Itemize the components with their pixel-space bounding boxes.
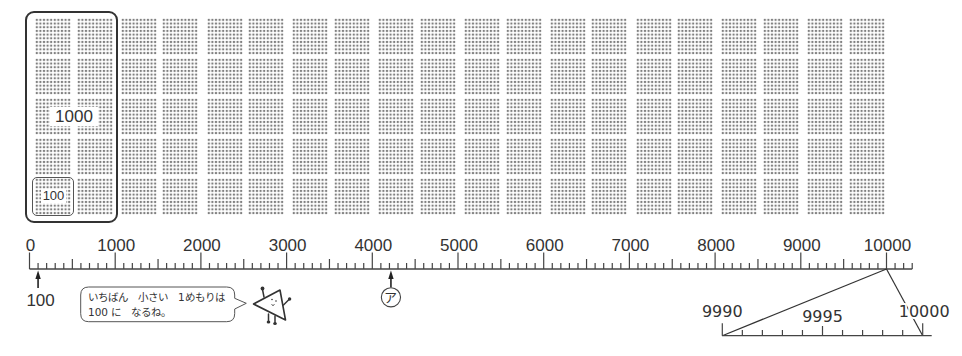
character-right-hand bbox=[288, 297, 291, 300]
character-right-foot bbox=[273, 322, 277, 325]
zoom-tick-label: 9995 bbox=[802, 307, 843, 326]
tick-label: 10000 bbox=[864, 236, 911, 255]
tick-label: 9000 bbox=[783, 236, 821, 255]
speech-bubble-line-1: いちばん 小さい 1めもりは bbox=[88, 291, 225, 303]
marker-100: 100 bbox=[26, 271, 54, 310]
character-eye-right bbox=[275, 300, 277, 302]
character-left-foot bbox=[267, 320, 271, 323]
tick-label: 2000 bbox=[183, 236, 221, 255]
tick-label: 7000 bbox=[611, 236, 649, 255]
tick-label: 6000 bbox=[526, 236, 564, 255]
character-left-arm bbox=[263, 290, 265, 298]
marker-label: 100 bbox=[26, 291, 54, 310]
zoom-tick-label: 10000 bbox=[899, 302, 950, 321]
marker-label: ア bbox=[384, 290, 397, 305]
character-left-hand bbox=[261, 287, 265, 291]
character-eye-left bbox=[271, 299, 273, 301]
arrow-up-icon bbox=[388, 271, 393, 280]
number-line-diagram: 0100020003000400050006000700080009000100… bbox=[0, 0, 962, 356]
arrow-up-icon bbox=[35, 271, 40, 280]
zoom-connector-left bbox=[722, 269, 886, 336]
tick-label: 5000 bbox=[440, 236, 478, 255]
zoomed-number-line: 9990999510000 bbox=[702, 269, 950, 336]
tick-label: 8000 bbox=[697, 236, 735, 255]
tick-label: 4000 bbox=[354, 236, 392, 255]
character-right-arm bbox=[284, 300, 290, 306]
character-body bbox=[254, 290, 286, 320]
zoom-tick-label: 9990 bbox=[702, 302, 743, 321]
triangle-character-icon bbox=[254, 287, 292, 326]
marker-a: ア bbox=[381, 271, 400, 307]
speech-bubble-line-2: 100 に なるね。 bbox=[88, 306, 171, 318]
speech-bubble: いちばん 小さい 1めもりは 100 に なるね。 bbox=[81, 287, 247, 322]
tick-label: 3000 bbox=[269, 236, 307, 255]
tick-label: 0 bbox=[26, 236, 35, 255]
tick-label: 1000 bbox=[97, 236, 135, 255]
